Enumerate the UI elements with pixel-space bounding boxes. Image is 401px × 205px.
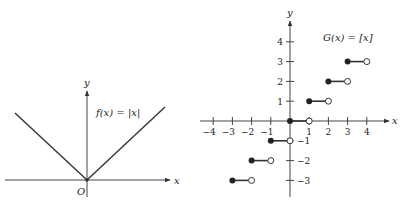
y-tick-label: 3 [277,57,283,67]
open-endpoint [364,59,370,65]
abs-left-branch [15,113,87,180]
open-endpoint [287,138,293,144]
y-tick-label: 4 [277,37,283,47]
step-function-chart: −4−3−2−11234 −3−2−11234 x y G(x) = [x] [200,7,398,197]
closed-endpoint [229,177,235,183]
abs-value-chart: x y O f(x) = |x| [5,77,180,197]
x-tick-label: 2 [326,127,332,137]
x-tick-label: −3 [222,127,236,137]
chart-title: G(x) = [x] [323,32,373,43]
open-endpoint [249,177,255,183]
y-tick-label: −2 [297,156,310,166]
open-endpoint [306,118,312,124]
origin-label: O [77,186,85,197]
y-tick-label: −1 [297,136,310,146]
chart-title: f(x) = |x| [95,107,140,119]
open-endpoint [268,158,274,164]
y-tick-label: −3 [297,176,311,186]
x-tick-label: −1 [260,127,273,137]
closed-endpoint [306,98,312,104]
open-endpoint [345,78,351,84]
y-tick-label: 1 [277,97,283,107]
x-axis-label: x [174,175,180,186]
closed-endpoint [345,59,351,65]
open-endpoint [325,98,331,104]
x-tick-label: 4 [364,127,370,137]
y-axis-label: y [83,77,90,88]
closed-endpoint [287,118,293,124]
closed-endpoint [249,158,255,164]
x-axis-label: x [392,115,398,126]
closed-endpoint [325,78,331,84]
x-tick-label: 3 [345,127,351,137]
x-tick-label: −4 [203,127,217,137]
closed-endpoint [268,138,274,144]
figure: x y O f(x) = |x| −4−3−2−11234 −3−2−11234… [0,0,401,205]
y-axis-label: y [286,7,293,18]
y-tick-label: 2 [277,77,283,87]
origin-point [85,178,88,181]
x-tick-label: −2 [241,127,254,137]
